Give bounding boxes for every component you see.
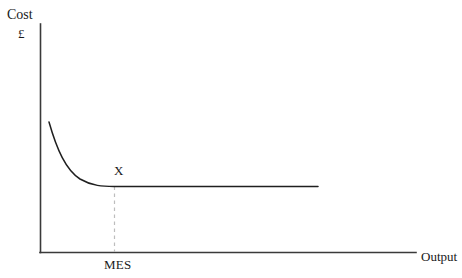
curve-point-label-x: X xyxy=(114,164,123,177)
lrac-diagram xyxy=(0,0,462,278)
mes-axis-label: MES xyxy=(104,258,131,271)
x-axis-label-output: Output xyxy=(421,250,457,263)
y-axis-label-cost: Cost xyxy=(7,8,33,22)
chart-background xyxy=(0,0,462,278)
y-axis-label-currency-symbol: £ xyxy=(18,27,25,40)
chart-canvas: Cost £ Output X MES xyxy=(0,0,462,278)
